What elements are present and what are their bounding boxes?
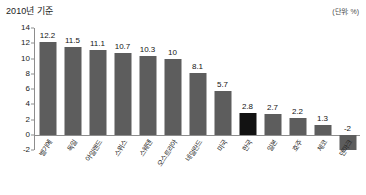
bar-slot: 2.2 xyxy=(285,28,310,150)
bar-slot: 12.2 xyxy=(35,28,60,150)
bar-slot: -2 xyxy=(335,28,360,150)
bar-value-label: 8.1 xyxy=(192,63,203,71)
bar-value-label: 2.7 xyxy=(267,104,278,112)
y-axis-tick-mark xyxy=(31,134,34,135)
bar[interactable] xyxy=(314,125,331,135)
bar-value-label: 11.5 xyxy=(65,37,80,45)
bar-slot: 10 xyxy=(160,28,185,150)
x-axis-label: 아일랜드 xyxy=(84,139,103,163)
bar-value-label: 11.1 xyxy=(90,40,105,48)
y-axis-tick-mark xyxy=(31,150,34,151)
y-axis-tick-label: 0 xyxy=(26,131,30,139)
bar-value-label: 1.3 xyxy=(317,115,328,123)
bar-value-label: 12.2 xyxy=(40,32,56,40)
bar[interactable] xyxy=(39,42,56,135)
y-axis-tick-mark xyxy=(31,73,34,74)
chart-container: 2010년 기준 (단위: %) 14121086420-2 12.211.51… xyxy=(0,0,366,195)
bar[interactable] xyxy=(64,47,81,135)
bar[interactable] xyxy=(264,114,281,135)
plot-area: 14121086420-2 12.211.511.110.710.3108.15… xyxy=(34,28,360,150)
x-axis-label: 한국 xyxy=(241,139,254,153)
y-axis-tick-label: -2 xyxy=(23,146,30,154)
bar[interactable] xyxy=(189,73,206,135)
bar-slot: 11.1 xyxy=(85,28,110,150)
chart-title: 2010년 기준 xyxy=(6,4,53,17)
bar[interactable] xyxy=(214,91,231,134)
bar-slot: 10.3 xyxy=(135,28,160,150)
x-axis-label: 오스트리아 xyxy=(155,139,178,168)
bar-value-label: 10.3 xyxy=(140,46,156,54)
y-axis-tick-mark xyxy=(31,89,34,90)
x-axis-label: 체코 xyxy=(316,139,329,153)
x-axis-label: 덴마크 xyxy=(337,139,353,158)
bar-series: 12.211.511.110.710.3108.15.72.82.72.21.3… xyxy=(35,28,360,150)
bar[interactable] xyxy=(139,56,156,135)
y-axis-tick-mark xyxy=(31,28,34,29)
bar-slot: 11.5 xyxy=(60,28,85,150)
bar[interactable] xyxy=(164,59,181,135)
y-axis-tick-mark xyxy=(31,58,34,59)
x-axis-labels: 벨기에독일아일랜드스위스스웨덴오스트리아네덜란드미국한국일본호주체코덴마크 xyxy=(35,137,360,195)
bar-value-label: 10.7 xyxy=(115,43,131,51)
y-axis-tick-label: 14 xyxy=(21,24,30,32)
bar-slot: 8.1 xyxy=(185,28,210,150)
bar-value-label: 2.8 xyxy=(242,103,253,111)
y-axis-tick-mark xyxy=(31,119,34,120)
bar[interactable] xyxy=(114,53,131,135)
bar-value-label: -2 xyxy=(344,125,351,133)
x-axis-label: 스웨덴 xyxy=(137,139,153,158)
bar-slot: 5.7 xyxy=(210,28,235,150)
y-axis-tick-label: 4 xyxy=(26,100,30,108)
x-axis-label: 네덜란드 xyxy=(184,139,203,163)
bar-slot: 10.7 xyxy=(110,28,135,150)
bar-slot: 2.8 xyxy=(235,28,260,150)
bar[interactable] xyxy=(89,50,106,135)
bar-value-label: 2.2 xyxy=(292,108,303,116)
y-axis-tick-label: 10 xyxy=(21,55,30,63)
bar-value-label: 5.7 xyxy=(217,81,228,89)
y-axis-tick-label: 12 xyxy=(21,39,30,47)
y-axis-tick-mark xyxy=(31,43,34,44)
bar-value-label: 10 xyxy=(168,49,177,57)
y-axis-tick-label: 8 xyxy=(26,70,30,78)
x-axis-label: 독일 xyxy=(66,139,79,153)
x-axis-label: 스위스 xyxy=(112,139,128,158)
x-axis-label: 일본 xyxy=(266,139,279,153)
bar-slot: 2.7 xyxy=(260,28,285,150)
y-axis-tick-label: 6 xyxy=(26,85,30,93)
unit-label: (단위: %) xyxy=(332,6,359,16)
x-axis-label: 호주 xyxy=(291,139,304,153)
bar-slot: 1.3 xyxy=(310,28,335,150)
bar-highlighted[interactable] xyxy=(239,113,256,134)
y-axis-tick-label: 2 xyxy=(26,116,30,124)
y-axis-tick-mark xyxy=(31,104,34,105)
bar[interactable] xyxy=(289,118,306,135)
x-axis-label: 미국 xyxy=(216,139,229,153)
x-axis-label: 벨기에 xyxy=(37,139,53,158)
